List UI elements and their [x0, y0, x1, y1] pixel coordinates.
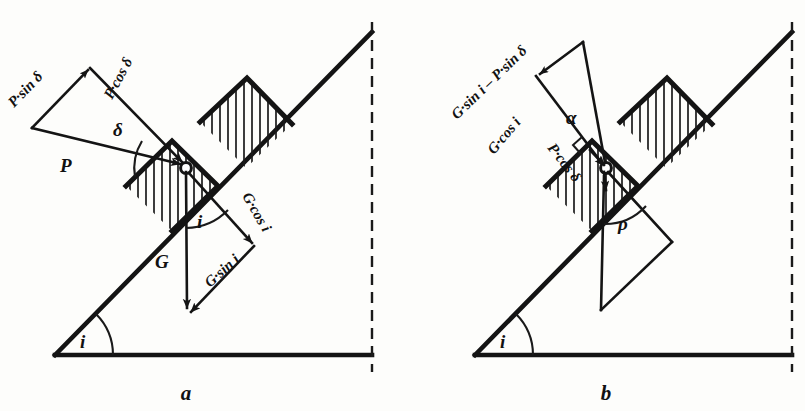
label-g-cos-i-a: G·cos i	[239, 190, 275, 236]
angle-arc-i-base-b	[516, 314, 533, 355]
triangle-b-lower-left-edge	[601, 176, 604, 310]
label-p-sin-delta-a: P·sin δ	[5, 68, 46, 110]
vector-p-cos-delta-a	[90, 68, 182, 162]
label-delta-a: δ	[113, 119, 123, 140]
panel-a	[32, 22, 372, 372]
label-rho-b: ρ	[617, 213, 628, 234]
label-g-cos-i-b: G·cos i	[484, 113, 524, 156]
label-angle-i-base-b: i	[500, 331, 506, 352]
vector-g-sin-i-minus-p-sin-delta-b	[540, 42, 583, 74]
panel-b	[475, 22, 792, 372]
hatched-block-upper-a-edge	[200, 78, 292, 124]
caption-a: a	[181, 381, 192, 405]
triangle-b-lower-right-edge	[601, 242, 672, 310]
label-p-cos-delta-a: P·cos δ	[101, 54, 136, 101]
vector-P-a	[32, 128, 180, 164]
label-P-a: P	[59, 155, 72, 176]
angle-arc-i-base-a	[96, 314, 113, 355]
label-alpha-b: α	[566, 107, 577, 128]
caption-b: b	[601, 381, 612, 405]
hatched-block-upper-b-edge	[620, 78, 712, 124]
mechanics-diagram: P·sin δ P·cos δ δ P G G·cos i G·sin i i …	[0, 0, 805, 411]
label-g-sin-i-a: G·sin i	[201, 250, 243, 290]
label-angle-i-base-a: i	[80, 331, 86, 352]
label-G-a: G	[155, 251, 169, 272]
label-angle-i-hinge-a: i	[197, 211, 203, 232]
label-g-sin-i-minus-p-sin-delta-b: G·sin i – P·sin δ	[448, 42, 530, 122]
figure-page: P·sin δ P·cos δ δ P G G·cos i G·sin i i …	[0, 0, 805, 411]
vector-G-a	[186, 172, 187, 308]
